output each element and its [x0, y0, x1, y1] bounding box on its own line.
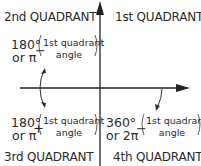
q2-term-line2: angle — [43, 49, 95, 60]
q4-formula-line2: or 2π — [106, 129, 138, 142]
quadrant-4-label: 4th QUADRANT — [113, 150, 201, 164]
q2-term-line1: 1st quadrant — [43, 37, 95, 48]
x-axis-arrow-icon — [176, 84, 190, 92]
q4-term-line1: 1st quadrant — [146, 115, 198, 126]
quadrant-1-label: 1st QUADRANT — [115, 10, 201, 24]
q4-term-line2: angle — [146, 127, 198, 138]
q2-formula-line2: or π — [12, 51, 36, 64]
q3-term-line2: angle — [43, 127, 95, 138]
quadrant-2-label: 2nd QUADRANT — [4, 10, 96, 24]
quadrant-3-label: 3rd QUADRANT — [4, 150, 93, 164]
y-axis-arrow-icon — [96, 1, 104, 15]
q3-term-line1: 1st quadrant — [43, 115, 95, 126]
